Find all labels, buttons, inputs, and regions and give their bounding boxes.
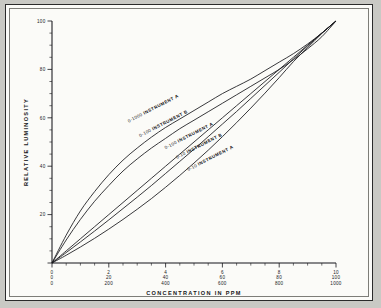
- x-tick-label: 800: [275, 281, 284, 286]
- curve-0-100-instrument-a: [52, 21, 336, 263]
- y-axis-tick-labels: 20406080100: [37, 19, 46, 218]
- x-axis-tick-labels: 024681002040608010002004006008001000: [51, 270, 342, 286]
- screenshot-root: 20406080100 0246810020406080100020040060…: [0, 0, 381, 308]
- x-tick-label: 80: [276, 275, 282, 280]
- x-axis-title: CONCENTRATION IN PPM: [146, 290, 242, 296]
- data-curves: [52, 21, 336, 263]
- y-axis-title: RELATIVE LUMINOSITY: [23, 98, 29, 186]
- x-tick-label: 8: [278, 270, 281, 275]
- x-tick-label: 60: [220, 275, 226, 280]
- y-tick-label: 100: [37, 19, 46, 24]
- y-tick-label: 40: [40, 164, 46, 169]
- x-tick-label: 0: [51, 281, 54, 286]
- y-axis-ticks: [48, 21, 53, 263]
- x-tick-label: 10: [333, 270, 339, 275]
- x-tick-label: 2: [107, 270, 110, 275]
- y-tick-label: 80: [40, 67, 46, 72]
- x-tick-label: 0: [51, 275, 54, 280]
- x-tick-label: 400: [161, 281, 170, 286]
- x-axis-ticks: [52, 263, 336, 268]
- x-tick-label: 6: [221, 270, 224, 275]
- luminosity-chart: 20406080100 0246810020406080100020040060…: [6, 5, 374, 302]
- plot-container: 20406080100 0246810020406080100020040060…: [6, 5, 374, 302]
- x-tick-label: 0: [51, 270, 54, 275]
- x-tick-label: 1000: [330, 281, 342, 286]
- y-tick-label: 60: [40, 116, 46, 121]
- x-tick-label: 4: [164, 270, 167, 275]
- chart-sheet: 20406080100 0246810020406080100020040060…: [5, 4, 373, 301]
- x-tick-label: 20: [106, 275, 112, 280]
- y-tick-label: 20: [40, 212, 46, 217]
- x-tick-label: 200: [105, 281, 114, 286]
- x-tick-label: 100: [332, 275, 341, 280]
- x-tick-label: 40: [163, 275, 169, 280]
- x-tick-label: 600: [218, 281, 227, 286]
